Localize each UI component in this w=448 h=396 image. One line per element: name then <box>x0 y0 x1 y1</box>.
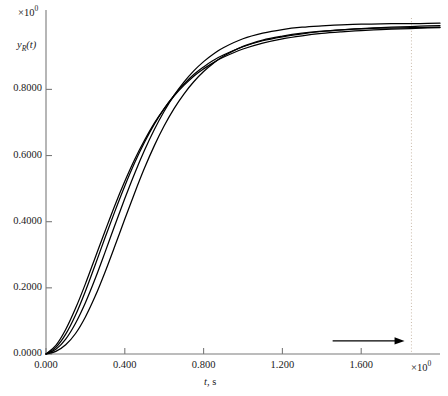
axis-lines <box>46 10 440 354</box>
x-tick-label: 1.600 <box>331 359 391 370</box>
y-tick-label: 0.6000 <box>0 149 42 160</box>
x-tick-label: 0.400 <box>95 359 155 370</box>
data-curve <box>46 28 440 354</box>
x-axis-ticks <box>46 348 361 354</box>
x-axis-exponent: ×100 <box>411 359 431 373</box>
y-axis-ticks <box>46 89 52 354</box>
x-tick-label: 0.800 <box>174 359 234 370</box>
y-axis-exponent: ×100 <box>18 4 38 18</box>
data-curve <box>46 26 440 354</box>
x-tick-label: 0.000 <box>16 359 76 370</box>
plot-canvas <box>0 0 448 396</box>
arrow-right-annotation <box>333 337 405 344</box>
data-curve <box>46 23 440 354</box>
y-axis-label: yR(t) <box>17 39 36 53</box>
data-curve <box>46 27 440 354</box>
y-tick-label: 0.8000 <box>0 82 42 93</box>
x-axis-label: t, s <box>204 376 216 387</box>
y-tick-label: 0.4000 <box>0 215 42 226</box>
x-tick-label: 1.200 <box>252 359 312 370</box>
arrow-head <box>395 337 405 344</box>
chart-figure: 0.00000.20000.40000.60000.8000 0.0000.40… <box>0 0 448 396</box>
y-tick-label: 0.2000 <box>0 281 42 292</box>
y-tick-label: 0.0000 <box>0 347 42 358</box>
data-curves <box>46 23 440 354</box>
